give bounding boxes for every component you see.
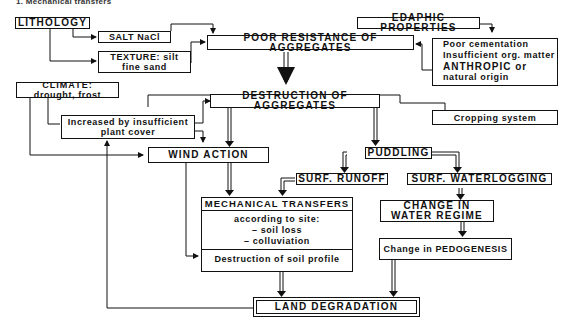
- node-wind-action: WIND ACTION: [148, 147, 269, 163]
- detail-line: Insufficient org. matter: [443, 50, 555, 61]
- node-increased-plant-cover: Increased by insufficient plant cover: [61, 115, 195, 139]
- node-surf-waterlogging: SURF. WATERLOGGING: [407, 173, 552, 185]
- node-label: LITHOLOGY: [18, 18, 87, 28]
- node-water-regime: CHANGE IN WATER REGIME: [380, 200, 494, 222]
- node-label: Cropping system: [454, 113, 537, 123]
- node-label: DESTRUCTION OF AGGREGATES: [211, 91, 379, 111]
- detail-line: natural origin: [443, 72, 509, 83]
- node-edaphic-details: Poor cementation Insufficient org. matte…: [432, 38, 558, 86]
- node-label: PUDDLING: [368, 148, 430, 158]
- node-pedogenesis: Change in PEDOGENESIS: [379, 238, 512, 260]
- node-label: drought, frost: [34, 90, 101, 100]
- node-texture: TEXTURE: silt fine sand: [98, 51, 191, 73]
- node-label: SURF. RUNOFF: [298, 174, 386, 184]
- node-cropping-system: Cropping system: [432, 110, 558, 125]
- node-label: EDAPHIC PROPERTIES: [358, 13, 479, 33]
- node-label: fine sand: [122, 62, 167, 72]
- mech-line: – colluviation: [202, 236, 352, 247]
- node-climate: CLIMATE: drought, frost: [16, 82, 119, 98]
- node-lithology: LITHOLOGY: [15, 17, 90, 29]
- node-edaphic: EDAPHIC PROPERTIES: [357, 17, 480, 29]
- node-label: plant cover: [101, 127, 156, 137]
- node-label: SALT NaCl: [109, 32, 160, 42]
- node-salt: SALT NaCl: [98, 31, 171, 43]
- node-label: POOR RESISTANCE OF AGGREGATES: [208, 33, 413, 53]
- node-label: SURF. WATERLOGGING: [412, 174, 548, 184]
- node-label: CLIMATE:: [42, 80, 92, 90]
- node-label: WATER REGIME: [391, 211, 483, 221]
- node-mechanical-transfers: MECHANICAL TRANSFERS according to site: …: [201, 197, 353, 272]
- node-puddling: PUDDLING: [365, 147, 432, 159]
- node-label: Change in PEDOGENESIS: [383, 244, 507, 254]
- mech-line: according to site:: [202, 214, 352, 225]
- node-poor-resistance: POOR RESISTANCE OF AGGREGATES: [207, 35, 414, 50]
- node-label: Increased by insufficient: [68, 117, 189, 127]
- mech-foot: Destruction of soil profile: [202, 249, 352, 268]
- detail-line: ANTHROPIC or: [443, 61, 527, 72]
- mech-body: according to site: – soil loss – colluvi…: [202, 211, 352, 249]
- node-label: WIND ACTION: [168, 150, 249, 160]
- node-label: TEXTURE: silt: [110, 52, 178, 62]
- mech-line: – soil loss: [202, 225, 352, 236]
- node-land-degradation: LAND DEGRADATION: [256, 300, 417, 314]
- mech-title: MECHANICAL TRANSFERS: [202, 198, 352, 211]
- node-destruction-aggregates: DESTRUCTION OF AGGREGATES: [210, 94, 380, 108]
- node-label: LAND DEGRADATION: [275, 302, 398, 312]
- detail-line: Poor cementation: [443, 39, 529, 50]
- node-surf-runoff: SURF. RUNOFF: [296, 173, 388, 185]
